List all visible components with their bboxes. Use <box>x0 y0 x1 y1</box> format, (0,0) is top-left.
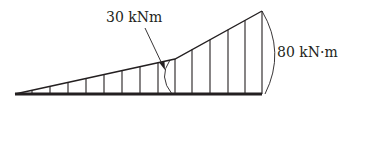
bending-moment-diagram: 30 kNm 80 kN·m <box>0 0 385 144</box>
kink-dimension-arc <box>164 60 172 94</box>
end-dimension-arc <box>262 11 275 94</box>
end-moment-label: 80 kN·m <box>277 44 338 60</box>
hatch-lines-right <box>192 11 262 94</box>
kink-moment-label: 30 kNm <box>106 9 162 25</box>
